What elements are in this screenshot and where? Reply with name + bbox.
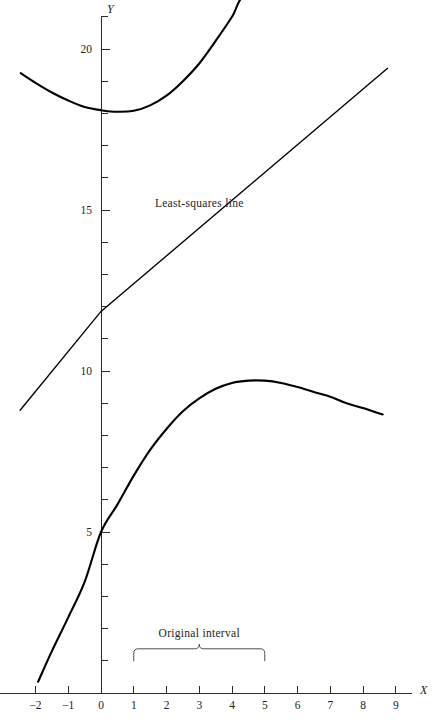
x-tick-label: 0 xyxy=(98,699,104,711)
y-tick-label: 10 xyxy=(81,365,93,377)
x-tick-label: 8 xyxy=(360,699,366,711)
x-tick-label: −1 xyxy=(62,699,74,711)
least-squares-line-label: Least-squares line xyxy=(155,197,244,210)
y-tick-label: 15 xyxy=(81,204,93,216)
x-tick-label: 3 xyxy=(196,699,202,711)
x-axis-tick-labels: −2−10123456789 xyxy=(29,699,399,711)
y-tick-label: 20 xyxy=(81,43,93,55)
axes-group xyxy=(0,16,412,693)
interval-bracket-path xyxy=(134,644,265,661)
original-interval-label: Original interval xyxy=(159,627,240,640)
y-axis-label: Y xyxy=(107,2,115,16)
annotations-group: Least-squares lineOriginal interval xyxy=(155,197,244,640)
upper-curve xyxy=(21,0,275,112)
x-tick-label: 9 xyxy=(393,699,399,711)
x-axis-label: X xyxy=(419,683,428,697)
data-series-group xyxy=(20,0,387,682)
x-tick-label: −2 xyxy=(29,699,41,711)
x-tick-label: 5 xyxy=(262,699,268,711)
x-tick-label: 1 xyxy=(131,699,137,711)
x-tick-label: 4 xyxy=(229,699,235,711)
x-tick-label: 2 xyxy=(164,699,170,711)
x-tick-label: 7 xyxy=(327,699,333,711)
y-axis-tick-labels: 5101520 xyxy=(81,43,93,538)
y-tick-label: 5 xyxy=(86,526,92,538)
x-tick-label: 6 xyxy=(295,699,301,711)
y-axis-ticks xyxy=(101,17,110,661)
least-squares-line xyxy=(20,68,387,410)
least-squares-extrapolation-figure: −2−10123456789 5101520 X Y Least-squares… xyxy=(0,0,437,723)
plot-canvas: −2−10123456789 5101520 X Y Least-squares… xyxy=(0,0,437,723)
original-interval-bracket xyxy=(134,644,265,661)
x-axis-ticks xyxy=(36,686,396,693)
